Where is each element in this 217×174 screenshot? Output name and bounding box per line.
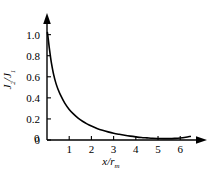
y-axis-arrow-icon <box>43 13 51 24</box>
x-axis-tick-label: 0 <box>34 133 40 144</box>
x-axis-tick-label: 2 <box>89 144 95 155</box>
chart-plot-area <box>0 0 217 174</box>
chart-axes <box>43 13 207 144</box>
x-axis-label: x/rm <box>88 155 134 170</box>
y-axis-tick-label: 0.2 <box>0 113 40 124</box>
x-axis-tick-label: 6 <box>177 144 183 155</box>
y-axis-label: J2/J1 <box>1 62 17 98</box>
x-axis-tick-label: 5 <box>155 144 161 155</box>
x-axis-tick-label: 1 <box>66 144 72 155</box>
x-axis-tick-label: 3 <box>111 144 117 155</box>
x-axis-label-text: x/rm <box>102 155 119 167</box>
y-axis-label-text: J2/J1 <box>1 70 16 90</box>
y-axis-tick-label: 0.8 <box>0 50 40 61</box>
x-axis-arrow-icon <box>196 136 207 144</box>
chart-figure: 00.20.40.60.81.0 0123456 J2/J1 x/rm <box>0 0 217 174</box>
x-axis-tick-label: 4 <box>133 144 139 155</box>
y-axis-tick-label: 1.0 <box>0 29 40 40</box>
data-series-curve <box>47 33 190 139</box>
